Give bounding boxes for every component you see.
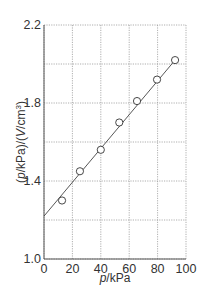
data-point-marker — [97, 146, 104, 153]
x-tick-label: 0 — [41, 262, 48, 276]
x-tick-label: 100 — [176, 262, 197, 276]
fit-line — [44, 60, 175, 216]
y-tick-label: 2.2 — [24, 18, 41, 32]
data-point-marker — [171, 57, 178, 64]
x-tick-label: 20 — [65, 262, 79, 276]
data-point-marker — [153, 76, 160, 83]
data-point-marker — [116, 119, 123, 126]
data-points — [58, 57, 178, 205]
tick-labels: 0204060801001.01.41.82.2 — [24, 18, 197, 276]
data-point-marker — [133, 97, 140, 104]
chart: 0204060801001.01.41.82.2 p/kPa (p/kPa)/(… — [0, 0, 204, 299]
y-tick-label: 1.0 — [24, 252, 41, 266]
data-point-marker — [58, 197, 65, 204]
y-axis-label: (p/kPa)/(V/cm3) — [14, 101, 29, 183]
x-axis-label: p/kPa — [99, 271, 131, 285]
x-tick-label: 80 — [151, 262, 165, 276]
grid-lines — [44, 25, 186, 259]
data-point-marker — [76, 168, 83, 175]
